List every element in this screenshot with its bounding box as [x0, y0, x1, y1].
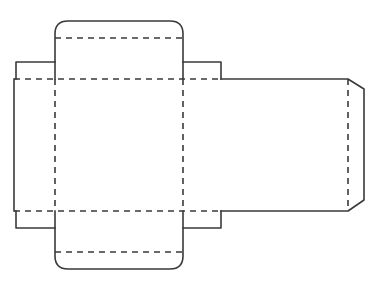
- cut-lines: [14, 21, 364, 269]
- left-dust-flap-bottom-outline: [16, 211, 55, 228]
- glue-flap-outline: [221, 79, 364, 211]
- fold-lines: [14, 38, 348, 252]
- right-dust-flap-top-outline: [183, 62, 221, 79]
- top-tuck-flap-outline: [55, 21, 183, 79]
- dieline-svg: [0, 0, 384, 281]
- box-net-diagram: Box net (dieline): [0, 0, 384, 281]
- left-dust-flap-top-outline: [16, 62, 55, 79]
- bottom-tuck-flap-outline: [55, 211, 183, 269]
- right-dust-flap-bottom-outline: [183, 211, 221, 228]
